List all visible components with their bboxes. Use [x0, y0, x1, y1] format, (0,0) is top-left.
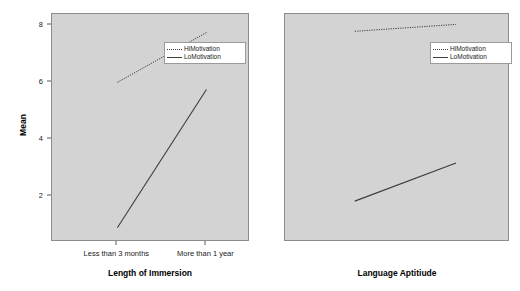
- dotted-line-icon: [433, 46, 448, 53]
- y-tick-label: 6: [512, 54, 520, 63]
- x-axis-title-left: Length of Immersion: [108, 268, 192, 278]
- legend-row-himotivation: HiMotivation: [167, 45, 242, 53]
- dotted-line-icon: [167, 46, 182, 53]
- legend-row-lomotivation: LoMotivation: [433, 53, 508, 61]
- chart-panel-language-aptitude: 1234567 High language aptitudeLow langua…: [260, 0, 520, 291]
- legend-label-himotivation: HiMotivation: [450, 45, 486, 53]
- legend-label-lomotivation: LoMotivation: [184, 53, 221, 61]
- y-tick-label: 8: [19, 20, 43, 29]
- legend-row-himotivation: HiMotivation: [433, 45, 508, 53]
- solid-line-icon: [433, 54, 448, 61]
- y-tick-mark: [47, 195, 51, 196]
- y-tick-mark: [47, 138, 51, 139]
- y-tick-label: 1: [512, 227, 520, 236]
- series-line-lomotivation: [117, 90, 206, 228]
- figure-canvas: 2468 Less than 3 monthsMore than 1 year …: [0, 0, 520, 291]
- x-tick-mark: [116, 241, 117, 245]
- legend-row-lomotivation: LoMotivation: [167, 53, 242, 61]
- series-line-lomotivation: [355, 163, 456, 201]
- legend-left: HiMotivation LoMotivation: [164, 42, 246, 64]
- y-tick-mark: [47, 24, 51, 25]
- y-tick-label: 3: [512, 157, 520, 166]
- x-axis-title-right: Language Aptitiude: [357, 268, 436, 278]
- y-tick-label: 2: [512, 192, 520, 201]
- y-tick-label: 7: [512, 19, 520, 28]
- legend-right: HiMotivation LoMotivation: [430, 42, 512, 64]
- chart-panel-length-of-immersion: 2468 Less than 3 monthsMore than 1 year …: [0, 0, 260, 291]
- y-tick-label: 4: [512, 123, 520, 132]
- x-tick-label: More than 1 year: [177, 249, 234, 258]
- y-axis-title-left: Mean: [18, 95, 28, 155]
- x-tick-label: Less than 3 months: [84, 249, 149, 258]
- legend-label-himotivation: HiMotivation: [184, 45, 220, 53]
- series-line-himotivation: [355, 24, 456, 31]
- legend-label-lomotivation: LoMotivation: [450, 53, 487, 61]
- y-tick-mark: [47, 81, 51, 82]
- y-tick-label: 6: [19, 77, 43, 86]
- y-tick-label: 2: [19, 191, 43, 200]
- y-tick-label: 5: [512, 88, 520, 97]
- x-tick-mark: [205, 241, 206, 245]
- solid-line-icon: [167, 54, 182, 61]
